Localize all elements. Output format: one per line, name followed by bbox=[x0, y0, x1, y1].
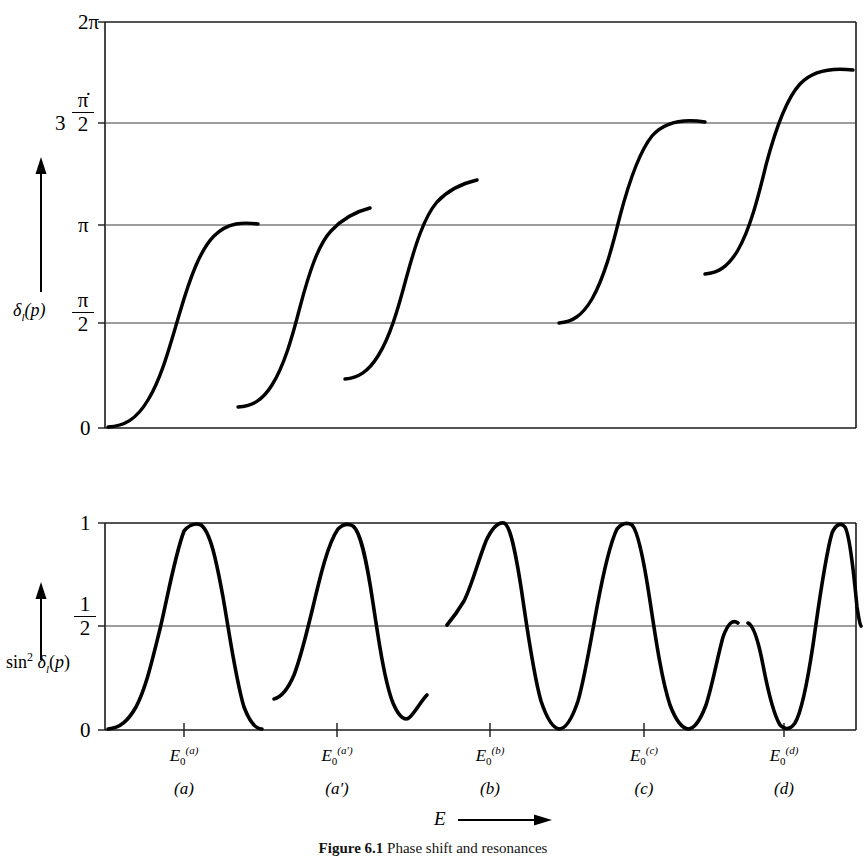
sin-squared-yticks bbox=[98, 523, 105, 730]
sin-squared-yaxis-arrow bbox=[36, 582, 47, 660]
energy-axis-label: E bbox=[434, 808, 446, 830]
energy-axis bbox=[0, 805, 866, 845]
xlabel-energy: E0(b) bbox=[440, 744, 540, 767]
sin2-curve-a bbox=[108, 524, 262, 729]
sin2-curve-a-prime bbox=[274, 524, 427, 719]
xlabel-energy: E0(c) bbox=[594, 744, 694, 767]
ytick-pi-over-2: π 2 bbox=[72, 290, 94, 335]
frac-numerator: 1 bbox=[74, 594, 96, 616]
ytick-3pi-over-2: π̇ 2 bbox=[72, 90, 94, 135]
ytick-3pi-over-2-prefix: 3 bbox=[55, 111, 66, 136]
phase-shift-yaxis-label: δl(p) bbox=[13, 300, 45, 323]
xlabel-a-prime: E0(a′) (a′) bbox=[287, 744, 387, 799]
xlabel-energy: E0(a′) bbox=[287, 744, 387, 767]
phase-curve-a bbox=[108, 223, 258, 427]
yaxis-label-text: δl(p) bbox=[13, 300, 45, 320]
xlabel-b: E0(b) (b) bbox=[440, 744, 540, 799]
xlabel-name: (a′) bbox=[287, 779, 387, 799]
phase-curve-c bbox=[559, 121, 705, 323]
xlabel-c: E0(c) (c) bbox=[594, 744, 694, 799]
frac-numerator: π bbox=[72, 290, 94, 312]
xlabel-energy: E0(a) bbox=[134, 744, 234, 767]
figure-caption-text: Phase shift and resonances bbox=[387, 840, 547, 856]
xlabel-name: (a) bbox=[134, 779, 234, 799]
phase-shift-yticks bbox=[98, 22, 105, 428]
phase-shift-yaxis-arrow bbox=[36, 157, 47, 292]
ytick-sin2-half: 1 2 bbox=[74, 594, 96, 639]
frac-denominator: 2 bbox=[72, 112, 94, 135]
xlabel-a: E0(a) (a) bbox=[134, 744, 234, 799]
ytick-0: 0 bbox=[80, 416, 91, 441]
sin-squared-yaxis-label: sin2 δl(p) bbox=[6, 650, 70, 675]
phase-shift-chart bbox=[0, 0, 866, 470]
phase-curve-d bbox=[705, 69, 853, 274]
figure-caption-label: Figure 6.1 bbox=[319, 840, 384, 856]
xlabel-name: (b) bbox=[440, 779, 540, 799]
xlabel-energy: E0(d) bbox=[734, 744, 834, 767]
sin-squared-chart bbox=[0, 515, 866, 775]
ytick-2pi: 2π bbox=[78, 10, 99, 35]
figure-caption: Figure 6.1 Phase shift and resonances bbox=[0, 840, 866, 857]
frac-denominator: 2 bbox=[72, 312, 94, 335]
xlabel-d: E0(d) (d) bbox=[734, 744, 834, 799]
ytick-sin2-1: 1 bbox=[80, 511, 91, 536]
sin2-curve-c bbox=[632, 525, 738, 729]
ytick-pi: π bbox=[78, 213, 89, 238]
yaxis-label-text: sin2 δl(p) bbox=[6, 652, 70, 672]
frac-denominator: 2 bbox=[74, 616, 96, 639]
ytick-sin2-0: 0 bbox=[80, 718, 91, 743]
xlabel-name: (c) bbox=[594, 779, 694, 799]
frac-numerator: π̇ bbox=[72, 90, 94, 112]
phase-shift-gridlines bbox=[105, 123, 856, 323]
xlabel-name: (d) bbox=[734, 779, 834, 799]
